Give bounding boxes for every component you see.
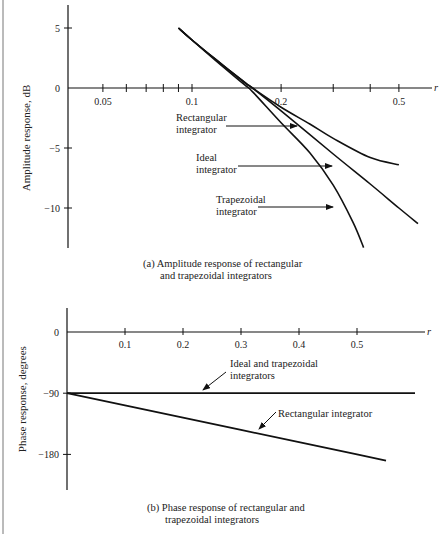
x-tick-label: 0.5 (351, 339, 364, 350)
y-axis-label: Amplitude response, dB (20, 85, 32, 192)
y-tick-label: −90 (43, 388, 59, 399)
y-tick-label: −10 (44, 203, 60, 214)
annotation-label: integrator (216, 206, 257, 217)
x-tick-label: 0.1 (186, 96, 199, 107)
rectangular-curve (178, 28, 398, 165)
caption: trapezoidal integrators (165, 514, 259, 525)
annotation-label: Rectangular integrator (278, 408, 373, 419)
annotation-label: Rectangular (176, 112, 227, 123)
annotation-label: integrator (176, 124, 217, 135)
x-tick-label: 0.3 (235, 339, 248, 350)
x-tick-label: 0.2 (177, 339, 190, 350)
x-tick-label: 0.05 (94, 96, 112, 107)
annotation-label: integrator (196, 164, 237, 175)
annotation-label: Trapezoidal (216, 194, 266, 205)
x-axis-label: r (434, 82, 439, 93)
annotation-label: integrators (230, 370, 275, 381)
trapezoidal-curve (178, 28, 363, 248)
y-axis-label: Phase response, degrees (16, 346, 28, 452)
y-tick-label: 5 (55, 23, 60, 34)
y-tick-label: −180 (38, 449, 59, 460)
y-tick-label: −5 (49, 143, 60, 154)
caption: (b) Phase response of rectangular and (147, 502, 305, 514)
x-tick-label: 0.1 (119, 339, 132, 350)
annotation-arrow (259, 412, 276, 429)
annotation-label: Ideal and trapezoidal (230, 358, 318, 369)
rectangular-line (67, 393, 386, 460)
x-axis-label: r (427, 326, 432, 337)
figure-canvas: r0.050.10.20.550−5−10Amplitude response,… (0, 0, 442, 534)
y-tick-label: 0 (55, 83, 60, 94)
x-tick-label: 0.5 (393, 96, 406, 107)
annotation-arrow (203, 372, 226, 390)
caption: and trapezoidal integrators (160, 270, 272, 281)
y-tick-label: 0 (54, 327, 59, 338)
caption: (a) Amplitude response of rectangular (143, 258, 303, 270)
amplitude-chart: r0.050.10.20.550−5−10Amplitude response,… (20, 5, 439, 281)
x-tick-label: 0.4 (293, 339, 306, 350)
phase-chart: r0.10.20.30.40.50−90−180Phase response, … (16, 308, 432, 525)
annotation-label: Ideal (196, 152, 217, 163)
